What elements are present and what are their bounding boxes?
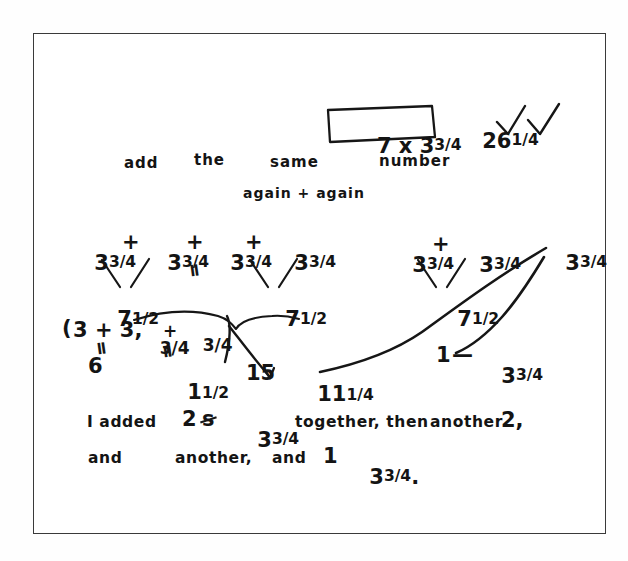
left-row1-plus3: + xyxy=(245,232,263,253)
left-row1-term4-frac: 3/4 xyxy=(309,255,336,271)
left-row1-term4: 33/4 xyxy=(265,232,336,295)
explanation-line2-count: 1 xyxy=(323,446,338,467)
explanation-line2-value: 33/4. xyxy=(340,446,419,509)
prompt-word-again-again: again + again xyxy=(243,186,365,200)
explanation-line2-and: and xyxy=(88,451,122,467)
breakdown-frac-b-value: 3/4 xyxy=(203,337,233,354)
right-standalone-frac: 3/4 xyxy=(580,255,607,271)
explanation-line1-second-count: 2, xyxy=(501,410,524,431)
explanation-line2-another: another, xyxy=(175,451,252,467)
grand-total-whole: 11 xyxy=(317,382,346,406)
explanation-line2-value-frac: 3/4 xyxy=(384,469,411,485)
explanation-line2-period: . xyxy=(411,465,419,489)
left-row1-term1-frac: 3/4 xyxy=(109,255,136,271)
boxed-expression-text: 7 x 33/4 xyxy=(333,110,462,182)
right-row1-term2-frac: 3/4 xyxy=(494,257,521,273)
left-row1-term1-whole: 3 xyxy=(94,251,109,275)
grand-total-frac: 1/4 xyxy=(346,388,373,404)
left-partial-sum-2: 71/2 xyxy=(256,288,327,351)
left-row1-term2-whole: 3 xyxy=(167,251,182,275)
left-partial2-frac: 1/2 xyxy=(300,312,327,328)
prompt-word-same: same xyxy=(270,155,319,170)
right-remainder-frac: 3/4 xyxy=(516,368,543,384)
explanation-line2-value-whole: 3 xyxy=(369,465,384,489)
boxed-expression: 7 x 33/4 xyxy=(325,104,433,140)
explanation-line1-value-frac: 3/4 xyxy=(272,432,299,448)
right-row1-term2-whole: 3 xyxy=(479,253,494,277)
explanation-line1-another: another xyxy=(430,415,503,431)
right-standalone-whole: 3 xyxy=(565,251,580,275)
right-row1-term1-whole: 3 xyxy=(412,253,427,277)
right-remainder-dash: — xyxy=(452,345,473,366)
right-partial-frac: 1/2 xyxy=(472,312,499,328)
breakdown-result-right-whole: 1 xyxy=(187,380,202,404)
answer-value: 261/4 xyxy=(453,110,539,173)
breakdown-result-right-frac: 1/2 xyxy=(202,386,229,402)
breakdown-frac-plus: + xyxy=(163,323,177,340)
left-total: 15 xyxy=(246,363,275,384)
explanation-line1-count: 2 xyxy=(182,409,197,430)
worksheet-page: 7 x 33/4 261/4 add the same number again… xyxy=(0,0,628,561)
right-remainder-value: 33/4 xyxy=(472,345,543,408)
breakdown-result-left: 6 xyxy=(88,356,103,377)
left-row1-term4-whole: 3 xyxy=(294,251,309,275)
prompt-word-add: add xyxy=(124,156,159,171)
explanation-line2-and2: and xyxy=(272,451,306,467)
prompt-word-the: the xyxy=(194,153,225,168)
right-remainder-whole: 3 xyxy=(501,364,516,388)
breakdown-open-paren: ( xyxy=(62,318,72,339)
explanation-line1-struck-char: s xyxy=(202,409,215,430)
prompt-word-number: number xyxy=(379,154,450,169)
right-partial-sum: 71/2 xyxy=(428,288,499,351)
left-row1-term3-whole: 3 xyxy=(230,251,245,275)
answer-fraction: 1/4 xyxy=(511,133,538,149)
right-standalone-term: 33/4 xyxy=(536,232,607,295)
left-row1-plus1: + xyxy=(122,232,140,253)
struck-character: s xyxy=(202,409,215,430)
right-partial-whole: 7 xyxy=(457,307,472,331)
answer-whole: 26 xyxy=(482,129,511,153)
explanation-line1-middle: together, then xyxy=(295,415,429,431)
right-remainder-count: 1 xyxy=(436,345,451,366)
breakdown-whole-sum: 3 + 3, xyxy=(73,320,142,341)
left-partial2-whole: 7 xyxy=(285,307,300,331)
explanation-line1-value-whole: 3 xyxy=(257,428,272,452)
right-row1-plus1: + xyxy=(432,234,450,255)
explanation-line1-prefix: I added xyxy=(87,415,157,431)
